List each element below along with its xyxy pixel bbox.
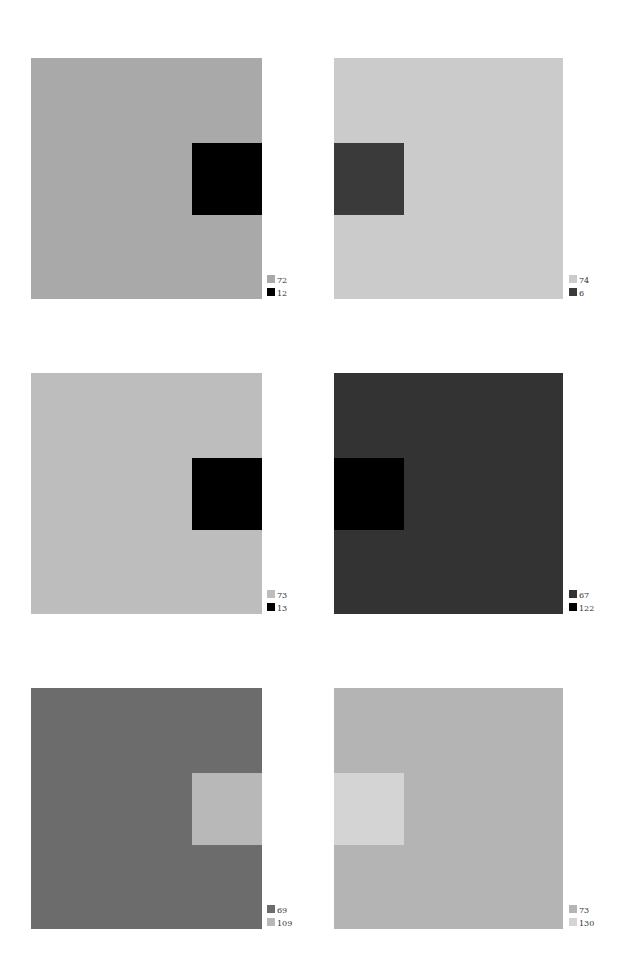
legend-6: 73 130 xyxy=(569,900,594,926)
inner-square-6 xyxy=(334,773,404,845)
legend-value: 74 xyxy=(579,277,589,285)
legend-swatch xyxy=(267,590,275,598)
legend-swatch xyxy=(267,275,275,283)
inner-square-2 xyxy=(334,143,404,215)
inner-square-1 xyxy=(192,143,262,215)
legend-swatch xyxy=(569,590,577,598)
legend-swatch xyxy=(267,603,275,611)
legend-swatch xyxy=(569,288,577,296)
legend-3: 73 13 xyxy=(267,585,287,611)
inner-square-4 xyxy=(334,458,404,530)
panel-5 xyxy=(31,688,262,929)
legend-swatch xyxy=(267,288,275,296)
legend-value: 13 xyxy=(277,605,287,613)
legend-value: 72 xyxy=(277,277,287,285)
legend-swatch xyxy=(569,275,577,283)
legend-value: 109 xyxy=(277,920,292,928)
legend-value: 122 xyxy=(579,605,594,613)
panel-1 xyxy=(31,58,262,299)
legend-swatch xyxy=(569,905,577,913)
legend-swatch xyxy=(569,918,577,926)
legend-value: 73 xyxy=(277,592,287,600)
legend-value: 73 xyxy=(579,907,589,915)
legend-value: 12 xyxy=(277,290,287,298)
legend-2: 74 6 xyxy=(569,270,589,296)
inner-square-3 xyxy=(192,458,262,530)
legend-4: 67 122 xyxy=(569,585,594,611)
panel-6 xyxy=(334,688,563,929)
inner-square-5 xyxy=(192,773,262,845)
legend-value: 67 xyxy=(579,592,589,600)
legend-value: 69 xyxy=(277,907,287,915)
legend-5: 69 109 xyxy=(267,900,292,926)
legend-swatch xyxy=(267,905,275,913)
legend-swatch xyxy=(267,918,275,926)
panel-4 xyxy=(334,373,563,614)
legend-swatch xyxy=(569,603,577,611)
legend-value: 130 xyxy=(579,920,594,928)
panel-2 xyxy=(334,58,563,299)
legend-1: 72 12 xyxy=(267,270,287,296)
panel-3 xyxy=(31,373,262,614)
legend-value: 6 xyxy=(579,290,584,298)
